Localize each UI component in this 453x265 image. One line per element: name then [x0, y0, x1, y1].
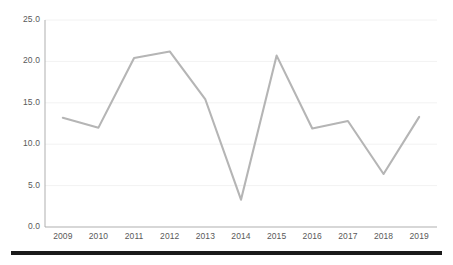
bottom-rule	[11, 251, 442, 255]
x-axis-tick-labels: 2009201020112012201320142015201620172018…	[0, 0, 453, 265]
x-tick-label: 2017	[331, 232, 365, 241]
x-tick-label: 2010	[81, 232, 115, 241]
line-chart: 0.05.010.015.020.025.0 20092010201120122…	[0, 0, 453, 265]
x-tick-label: 2011	[117, 232, 151, 241]
x-tick-label: 2015	[260, 232, 294, 241]
x-tick-label: 2016	[295, 232, 329, 241]
x-tick-label: 2013	[188, 232, 222, 241]
x-tick-label: 2014	[224, 232, 258, 241]
x-tick-label: 2019	[402, 232, 436, 241]
x-tick-label: 2009	[46, 232, 80, 241]
x-tick-label: 2012	[153, 232, 187, 241]
x-tick-label: 2018	[367, 232, 401, 241]
